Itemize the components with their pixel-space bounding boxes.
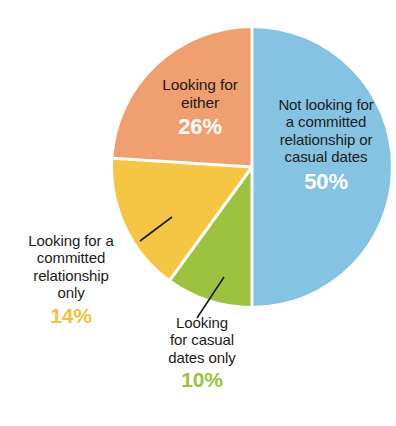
slice-percent-green: 10% — [140, 368, 264, 392]
slice-percent-orange: 26% — [146, 114, 254, 140]
pie-chart: Not looking for a committed relationship… — [0, 0, 396, 426]
slice-label-blue: Not looking for a committed relationship… — [258, 96, 394, 194]
slice-percent-yellow: 14% — [2, 304, 140, 328]
slice-label-yellow: Looking for a committed relationship onl… — [2, 232, 140, 328]
slice-label-orange: Looking for either 26% — [146, 76, 254, 139]
slice-label-green: Looking for casual dates only 10% — [140, 314, 264, 393]
slice-label-yellow-text: Looking for a committed relationship onl… — [2, 232, 140, 302]
slice-label-blue-text: Not looking for a committed relationship… — [258, 96, 394, 166]
slice-label-orange-text: Looking for either — [146, 76, 254, 112]
slice-percent-blue: 50% — [258, 169, 394, 195]
slice-label-green-text: Looking for casual dates only — [140, 314, 264, 366]
